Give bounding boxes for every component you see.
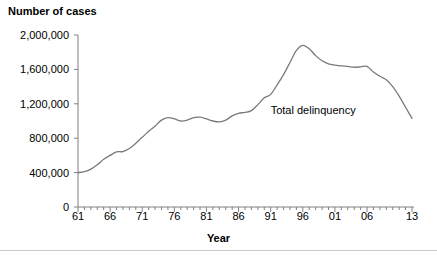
x-axis-tick-label: 71 bbox=[136, 210, 148, 222]
x-axis-tick-label: 01 bbox=[329, 210, 341, 222]
x-axis-tick-label: 86 bbox=[232, 210, 244, 222]
footer-divider bbox=[0, 250, 437, 251]
y-axis-tick-label: 400,000 bbox=[0, 167, 69, 179]
chart-figure: Number of cases 0400,000800,0001,200,000… bbox=[0, 0, 437, 256]
x-axis-tick-label: 66 bbox=[104, 210, 116, 222]
y-axis-ticks bbox=[74, 35, 78, 207]
axis-lines bbox=[78, 35, 414, 207]
x-axis-tick-label: 96 bbox=[297, 210, 309, 222]
x-axis-tick-label: 76 bbox=[168, 210, 180, 222]
y-axis-tick-label: 0 bbox=[0, 201, 69, 213]
y-axis-tick-label: 2,000,000 bbox=[0, 29, 69, 41]
y-axis-tick-label: 800,000 bbox=[0, 132, 69, 144]
x-axis-tick-label: 06 bbox=[361, 210, 373, 222]
data-series-group bbox=[78, 45, 412, 172]
y-axis-tick-label: 1,600,000 bbox=[0, 63, 69, 75]
y-axis-title: Number of cases bbox=[8, 5, 97, 17]
x-axis-tick-label: 91 bbox=[265, 210, 277, 222]
x-axis-tick-label: 13 bbox=[406, 210, 418, 222]
x-axis-tick-label: 81 bbox=[200, 210, 212, 222]
x-axis-title: Year bbox=[0, 232, 437, 244]
data-line-total-delinquency bbox=[78, 45, 412, 172]
y-axis-tick-label: 1,200,000 bbox=[0, 98, 69, 110]
series-annotation-label: Total delinquency bbox=[271, 104, 356, 116]
x-axis-tick-label: 61 bbox=[72, 210, 84, 222]
